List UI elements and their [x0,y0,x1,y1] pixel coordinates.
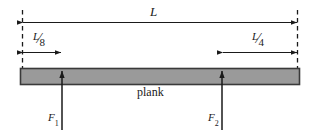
plank-force-diagram: L L⁄8 L⁄4 plank F1 F2 [0,0,320,137]
force-subscript: 2 [215,119,219,128]
fraction-denominator: 4 [258,36,264,48]
force-label-f1: F1 [48,112,59,126]
force-subscript: 1 [55,119,59,128]
plank-label: plank [137,86,164,98]
dimension-label-total: L [150,5,157,18]
force-symbol: F [208,111,215,123]
dimension-label-right-offset: L⁄4 [252,31,266,47]
dimension-label-left-offset: L⁄8 [33,31,47,47]
force-label-f2: F2 [208,112,219,126]
fraction-denominator: 8 [39,36,45,48]
force-symbol: F [48,111,55,123]
